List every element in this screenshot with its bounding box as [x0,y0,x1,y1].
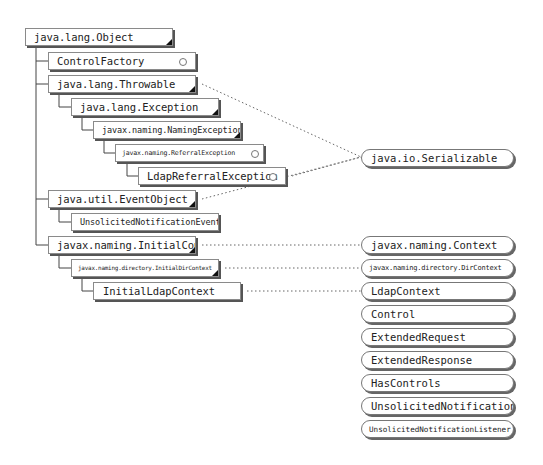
class-controlfactory[interactable]: ControlFactory [48,52,196,70]
circle-icon [179,58,187,66]
class-referral-exception[interactable]: javax.naming.ReferralException [115,144,264,162]
interface-dir-context[interactable]: javax.naming.directory.DirContext [361,259,514,277]
class-label: ControlFactory [57,55,144,67]
interface-label: UnsolicitedNotificationListener [369,425,511,434]
class-label: UnsolicitedNotificationEvent [80,217,219,227]
interface-extended-response[interactable]: ExtendedResponse [361,351,514,369]
class-hierarchy-diagram: java.lang.Object ControlFactory java.lan… [0,0,543,465]
class-label: javax.naming.directory.InitialDirContext [78,265,212,271]
interface-label: java.io.Serializable [371,152,497,164]
class-label: java.lang.Object [34,31,134,43]
class-label: InitialLdapContext [103,285,215,297]
abstract-corner-icon [234,132,240,138]
class-java-lang-object[interactable]: java.lang.Object [25,28,173,46]
interface-extended-request[interactable]: ExtendedRequest [361,328,514,346]
class-naming-exception[interactable]: javax.naming.NamingException [93,121,241,139]
abstract-corner-icon [166,39,172,45]
interface-label: javax.naming.directory.DirContext [369,264,501,272]
class-java-util-eventobject[interactable]: java.util.EventObject [48,190,196,208]
class-initial-context[interactable]: javax.naming.InitialContext [48,236,196,254]
class-label: javax.naming.NamingException [102,125,241,135]
class-label: LdapReferralException [147,170,278,182]
interface-has-controls[interactable]: HasControls [361,374,514,392]
class-label: javax.naming.InitialContext [57,239,196,251]
interface-label: javax.naming.Context [371,239,497,251]
interface-ldap-context[interactable]: LdapContext [361,282,514,300]
class-ldap-referral-exception[interactable]: LdapReferralException [138,167,286,185]
interface-label: HasControls [371,377,441,389]
abstract-corner-icon [189,247,195,253]
interface-label: Control [371,308,415,320]
class-label: java.lang.Exception [80,101,198,113]
interface-label: ExtendedRequest [371,331,466,343]
class-initial-ldap-context[interactable]: InitialLdapContext [93,282,241,300]
circle-icon [269,173,277,181]
interface-control[interactable]: Control [361,305,514,323]
class-label: java.util.EventObject [57,193,188,205]
abstract-corner-icon [212,270,218,276]
class-unsolicited-notification-event[interactable]: UnsolicitedNotificationEvent [71,213,219,231]
interface-context[interactable]: javax.naming.Context [361,236,514,254]
abstract-corner-icon [189,86,195,92]
interface-unsolicited-notification-listener[interactable]: UnsolicitedNotificationListener [361,420,514,438]
interface-label: LdapContext [371,285,441,297]
interface-label: UnsolicitedNotification [371,400,514,412]
class-initial-dir-context[interactable]: javax.naming.directory.InitialDirContext [71,259,219,277]
class-label: java.lang.Throwable [57,78,175,90]
interface-label: ExtendedResponse [371,354,472,366]
abstract-corner-icon [212,109,218,115]
class-java-lang-exception[interactable]: java.lang.Exception [71,98,219,116]
abstract-corner-icon [189,201,195,207]
circle-icon [251,150,259,158]
interface-serializable[interactable]: java.io.Serializable [361,149,514,167]
class-java-lang-throwable[interactable]: java.lang.Throwable [48,75,196,93]
interface-unsolicited-notification[interactable]: UnsolicitedNotification [361,397,514,415]
class-label: javax.naming.ReferralException [122,149,235,157]
